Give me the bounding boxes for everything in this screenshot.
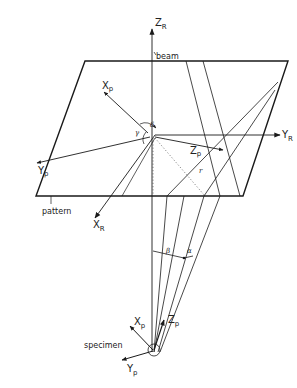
label-r: r (199, 167, 203, 175)
label-beam: beam (156, 52, 179, 61)
label-x-r: XR (93, 219, 105, 233)
label-z-r: ZR (155, 17, 167, 31)
label-beta: β (165, 247, 170, 255)
y-p-axis (122, 351, 153, 360)
label-delta: δ (150, 121, 154, 129)
pattern-center-ray (122, 138, 155, 196)
ray-line-4 (204, 90, 275, 196)
label-y-r: YR (281, 129, 293, 143)
ray-line-2 (203, 61, 240, 196)
z-p-prime-axis (155, 137, 223, 150)
label-alpha: α (187, 247, 192, 255)
label-specimen: specimen (84, 341, 123, 350)
ray-line-1 (186, 61, 220, 196)
label-z-p-prime: Zp (190, 145, 202, 158)
label-gamma: γ (135, 129, 140, 137)
diffraction-geometry-figure: ZR beam YR XR Xp Yp Zp pattern specimen … (0, 0, 297, 388)
y-p-prime-axis (37, 137, 150, 163)
diagram-canvas: ZR beam YR XR Xp Yp Zp pattern specimen … (0, 0, 297, 388)
x-p-prime-axis (104, 92, 148, 133)
pattern-plane (36, 61, 288, 196)
label-x-p-prime: Xp (102, 80, 114, 93)
label-x-p: Xp (134, 316, 146, 330)
alpha-angle-mark (184, 256, 193, 258)
dotted-projection-diagonal (155, 138, 205, 196)
label-pattern: pattern (42, 207, 71, 216)
label-y-p: Yp (126, 363, 138, 377)
